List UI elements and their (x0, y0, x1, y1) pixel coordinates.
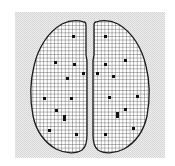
marker-right (112, 75, 115, 78)
marker-left (70, 97, 73, 100)
marker-left (75, 133, 78, 136)
marker-right (108, 96, 111, 99)
marker-left (43, 97, 46, 100)
brain-grid-diagram (0, 0, 175, 166)
marker-right (124, 108, 127, 111)
marker-left (82, 72, 85, 75)
marker-right (136, 95, 139, 98)
marker-right (96, 72, 99, 75)
marker-left (73, 63, 76, 66)
marker-left (66, 77, 69, 80)
marker-left (54, 61, 57, 64)
marker-right (104, 63, 107, 66)
marker-left (48, 129, 51, 132)
marker-right (132, 127, 135, 130)
diagram-canvas (0, 0, 175, 166)
marker-right (104, 133, 107, 136)
marker-left (63, 115, 66, 121)
marker-right (104, 35, 107, 38)
marker-right (124, 59, 127, 62)
marker-left (55, 109, 58, 112)
marker-left (72, 35, 75, 38)
marker-right (116, 112, 119, 118)
